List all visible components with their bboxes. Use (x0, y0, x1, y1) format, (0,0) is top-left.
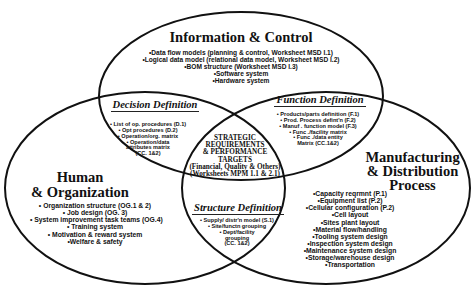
list-item: • System improvement task teams (OG.4) (30, 216, 160, 223)
function-title: Function Definition (265, 94, 375, 107)
structure-list: • Supply/ distr'n model (S.1) • Site/fun… (190, 218, 284, 247)
manufacturing-title-line2: & Distribution (355, 164, 470, 178)
function-title-text: Function Definition (274, 94, 365, 107)
manufacturing-title-line1: Manufacturing (355, 150, 470, 164)
list-item: •Cellular configuration (P.2) (290, 204, 410, 211)
list-item: (CC. 1&2) (190, 241, 284, 247)
info-control-title: Information & Control (141, 29, 341, 46)
decision-title-text: Decision Definition (111, 99, 200, 112)
center-line: (Worksheets MPM 1.1 & 2.1) (175, 171, 295, 178)
human-org-list: • Organization structure (OG.1 & 2) • Jo… (30, 202, 160, 245)
list-item: •Material flow/handling (290, 226, 410, 233)
list-item: •Capacity reqrmnt (P.1) (290, 190, 410, 197)
list-item: •Maintenance system design (290, 247, 410, 254)
list-item: •Cell layout (290, 211, 410, 218)
list-item: •Welfare & safety (30, 238, 160, 245)
list-item: • Training system (30, 223, 160, 230)
manufacturing-list: •Capacity reqrmnt (P.1) •Equipment list … (290, 190, 410, 268)
list-item: •Hardware system (141, 78, 341, 85)
venn-diagram: Information & Control •Data flow models … (0, 0, 474, 292)
list-item: • Motivation & reward system (30, 231, 160, 238)
list-item: •Transportation (290, 261, 410, 268)
center-targets: STRATEGIC REQUIREMENTS & PERFORMANCE TAR… (175, 135, 295, 178)
structure-title-text: Structure Definition (192, 202, 284, 215)
list-item: •Equipment list (P.2) (290, 197, 410, 204)
structure-title: Structure Definition (188, 202, 288, 215)
list-item: •Sites plant layout (290, 219, 410, 226)
info-control-list: •Data flow models (planning & control, W… (141, 50, 341, 85)
list-item: •Tooling system design (290, 233, 410, 240)
human-org-title: Human & Organization (20, 170, 140, 199)
list-item: • Job design (OG. 3) (30, 209, 160, 216)
decision-title: Decision Definition (105, 99, 205, 112)
list-item: •Storage/warehouse design (290, 254, 410, 261)
human-org-title-line1: Human (20, 170, 140, 185)
list-item: •Inspection system design (290, 240, 410, 247)
human-org-title-line2: & Organization (20, 185, 140, 200)
list-item: • Organization structure (OG.1 & 2) (30, 202, 160, 209)
manufacturing-title: Manufacturing & Distribution Process (355, 150, 470, 193)
